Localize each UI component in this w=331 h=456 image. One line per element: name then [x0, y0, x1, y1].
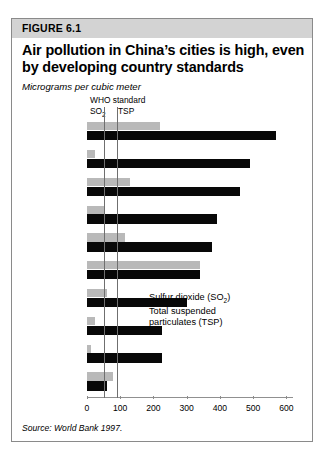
bar-tsp [87, 131, 276, 140]
x-axis-tick [253, 396, 254, 399]
x-axis-tick-label: 300 [180, 403, 194, 413]
chart-legend: Sulfur dioxide (SO2) Total suspended par… [149, 292, 230, 328]
x-axis-tick-label: 500 [246, 403, 260, 413]
chart-bar-row: Taiyuan [87, 120, 293, 148]
bar-so2 [87, 178, 130, 186]
who-standard-reference-line [117, 107, 118, 398]
x-axis-tick-label: 100 [113, 403, 127, 413]
x-axis-tick [286, 396, 287, 399]
x-axis-tick [187, 396, 188, 399]
chart-bar-row: Bangkok [87, 342, 293, 370]
bar-so2 [87, 206, 104, 214]
bar-so2 [87, 233, 125, 241]
bar-tsp [87, 187, 240, 196]
bar-tsp [87, 159, 250, 168]
bar-so2 [87, 372, 113, 380]
bar-so2 [87, 345, 91, 353]
chart-bar-row: Beijing [87, 231, 293, 259]
who-standard-tsp-label: TSP [118, 106, 134, 116]
who-standard-heading: WHO standard [90, 95, 145, 105]
legend-item-so2: Sulfur dioxide (SO2) [149, 292, 230, 306]
legend-item-tsp-line2: particulates (TSP) [149, 317, 230, 328]
bar-so2 [87, 122, 160, 130]
x-axis-tick [120, 396, 121, 399]
x-axis-tick [153, 396, 154, 399]
chart-plot-area: WHO standard SO2 TSP TaiyuanDelhiJinanCa… [12, 95, 314, 425]
figure-source: Source: World Bank 1997. [22, 423, 122, 433]
who-so2-text: SO [90, 106, 102, 116]
chart-bar-row: Jinan [87, 176, 293, 204]
figure-title: Air pollution in China’s cities is high,… [22, 42, 307, 75]
bar-tsp [87, 214, 217, 223]
chart-bar-row: New York City [87, 370, 293, 398]
x-axis-tick [87, 396, 88, 399]
legend-item-tsp-line1: Total suspended [149, 306, 230, 317]
x-axis-tick-label: 200 [146, 403, 160, 413]
x-axis-tick-label: 600 [279, 403, 293, 413]
figure-number-label: FIGURE 6.1 [22, 22, 81, 34]
figure-card: FIGURE 6.1 Air pollution in China’s citi… [11, 18, 313, 442]
x-axis-tick-label: 0 [85, 403, 90, 413]
bar-tsp [87, 242, 212, 251]
x-axis-tick-label: 400 [213, 403, 227, 413]
chart-bar-row: Delhi [87, 148, 293, 176]
who-standard-reference-line [104, 107, 105, 398]
bar-tsp [87, 353, 162, 362]
chart-axis-area: TaiyuanDelhiJinanCalcuttaBeijingChongqin… [87, 120, 293, 398]
legend-so2-paren: ) [227, 292, 230, 302]
bar-so2 [87, 317, 95, 325]
figure-banner: FIGURE 6.1 [12, 19, 312, 38]
chart-bar-row: Chongqing [87, 259, 293, 287]
x-axis-tick [220, 396, 221, 399]
bar-so2 [87, 150, 95, 158]
legend-so2-text: Sulfur dioxide (SO [149, 292, 224, 302]
figure-units-label: Micrograms per cubic meter [22, 81, 141, 92]
chart-bar-row: Calcutta [87, 203, 293, 231]
